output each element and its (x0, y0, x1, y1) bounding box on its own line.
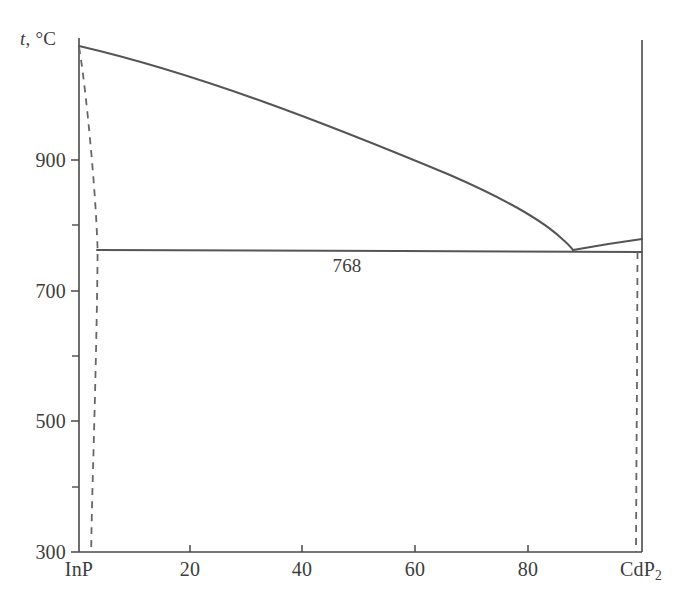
y-axis-title: CdP t, °C (20, 28, 56, 50)
x-tick-label-80: 80 (498, 558, 558, 581)
y-tick-label-500: 500 (12, 410, 66, 433)
phase-diagram-figure: CdP t, °C 900 700 500 300 InP 20 40 60 8… (0, 0, 692, 611)
x-tick-label-cdp2-base: CdP (620, 558, 655, 580)
phase-diagram-plot (0, 0, 692, 611)
x-axis-ticks (190, 545, 528, 552)
y-tick-label-900: 900 (12, 149, 66, 172)
x-tick-label-cdp2: CdP2 (604, 558, 678, 584)
x-tick-label-40: 40 (272, 558, 332, 581)
x-tick-label-60: 60 (385, 558, 445, 581)
eutectic-horizontal-line (97, 250, 642, 252)
y-axis-title-text: t, °C (20, 28, 56, 49)
y-axis-minor-ticks (72, 225, 79, 487)
y-tick-label-700: 700 (12, 280, 66, 303)
solvus-cdp2-dashed (636, 252, 638, 552)
x-tick-label-20: 20 (160, 558, 220, 581)
liquidus-inp-curve (79, 46, 573, 250)
solvus-inp-dashed (79, 47, 98, 552)
x-tick-label-cdp2-sub: 2 (655, 568, 662, 583)
liquidus-cdp2-curve (573, 239, 642, 250)
x-tick-label-inp: InP (49, 558, 109, 581)
eutectic-temperature-label: 768 (312, 255, 382, 277)
